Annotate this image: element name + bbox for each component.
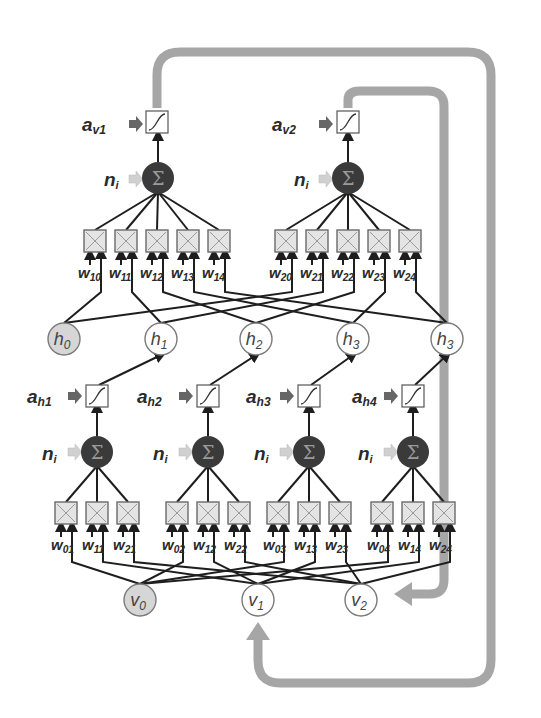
neural-network-diagram: av1 ni Σ av2 ni Σ w10w11w12w13w14w20w21w…	[0, 0, 541, 718]
product-box	[117, 502, 139, 524]
connection-line	[158, 192, 219, 230]
hidden-node-h3: h3	[431, 323, 463, 355]
activation-label-av2: av2	[272, 114, 296, 137]
a-arrow-icon	[179, 388, 193, 404]
connection-line	[413, 466, 444, 502]
input-label-ni: ni	[153, 443, 169, 465]
weight-label: w11	[82, 536, 105, 555]
output-unit-1: av1 ni Σ	[82, 111, 174, 194]
activation-label-h1: ah1	[27, 386, 52, 409]
product-box	[86, 502, 108, 524]
product-box	[371, 502, 393, 524]
weight-label: w04	[367, 536, 390, 555]
sum-icon: Σ	[303, 442, 316, 463]
output-unit-2: av2 ni Σ	[272, 111, 364, 194]
weight-label: w12	[140, 264, 163, 283]
a-arrow-icon	[68, 388, 82, 404]
weight-label: w14	[398, 536, 421, 555]
a-arrow-icon	[280, 388, 294, 404]
connection-line	[317, 192, 348, 230]
activation-label-h3: ah3	[246, 386, 271, 409]
connection-line	[72, 526, 140, 584]
hidden-nodes: h0h1h2h3h3	[48, 323, 463, 355]
sum-icon: Σ	[407, 442, 420, 463]
weight-label: w24	[393, 264, 416, 283]
ni-arrow-icon	[280, 444, 294, 460]
sum-icon: Σ	[202, 442, 215, 463]
connection-line	[210, 355, 256, 385]
hidden-node-h3: h3	[337, 323, 369, 355]
ni-arrow-icon	[68, 444, 82, 460]
connection-line	[95, 192, 158, 230]
product-box	[177, 230, 199, 252]
connection-line	[348, 192, 379, 230]
output-product-boxes: w10w11w12w13w14w20w21w22w23w24	[78, 230, 421, 283]
connection-line	[348, 192, 410, 230]
connection-line	[126, 192, 158, 230]
connection-line	[157, 192, 158, 230]
input-label-ni: ni	[358, 443, 374, 465]
weight-label: w14	[202, 264, 225, 283]
ni-arrow-icon	[319, 171, 333, 187]
a-arrow-icon	[129, 116, 143, 132]
weight-label: w21	[113, 536, 136, 555]
visible-node-v0: v0	[124, 584, 156, 616]
activation-label-h2: ah2	[137, 386, 162, 409]
product-box	[197, 502, 219, 524]
hidden-node-h1: h1	[145, 323, 177, 355]
weight-label: w21	[300, 264, 323, 283]
weight-label: w20	[269, 264, 292, 283]
ni-arrow-icon	[384, 444, 398, 460]
hidden-node-h2: h2	[240, 323, 272, 355]
weight-label: w01	[51, 536, 74, 555]
ni-arrow-icon	[179, 444, 193, 460]
connection-line	[177, 466, 208, 502]
sum-icon: Σ	[342, 168, 355, 189]
weight-label: w10	[78, 264, 101, 283]
connection-line	[208, 466, 239, 502]
connection-line	[158, 192, 188, 230]
a-arrow-icon	[384, 388, 398, 404]
feedback-arrows	[157, 52, 491, 683]
a-arrow-icon	[319, 116, 333, 132]
product-box	[306, 230, 328, 252]
product-box	[208, 230, 230, 252]
product-box	[298, 502, 320, 524]
visible-node-v2: v2	[345, 584, 377, 616]
product-box	[368, 230, 390, 252]
product-box	[337, 230, 359, 252]
weight-label: w11	[109, 264, 132, 283]
connection-line	[286, 192, 348, 230]
connection-line	[97, 466, 128, 502]
activation-label-av1: av1	[82, 114, 106, 137]
product-box	[55, 502, 77, 524]
connection-line	[311, 355, 353, 385]
sum-icon: Σ	[152, 168, 165, 189]
product-box	[84, 230, 106, 252]
hidden-node-h0: h0	[48, 323, 80, 355]
product-box	[402, 502, 424, 524]
activation-label-h4: ah4	[352, 386, 377, 409]
weight-label: w12	[193, 536, 216, 555]
connection-line	[140, 526, 183, 584]
product-box	[267, 502, 289, 524]
product-box	[228, 502, 250, 524]
product-box	[146, 230, 168, 252]
weight-label: w13	[294, 536, 317, 555]
input-label-ni: ni	[254, 443, 270, 465]
connection-line	[346, 526, 361, 584]
product-box	[166, 502, 188, 524]
weight-label: w13	[171, 264, 194, 283]
input-label-ni: ni	[104, 169, 120, 191]
connection-line	[382, 466, 413, 502]
product-box	[275, 230, 297, 252]
weight-label: w22	[224, 536, 247, 555]
connection-line	[66, 466, 97, 502]
input-label-ni: ni	[42, 443, 58, 465]
visible-node-v1: v1	[242, 584, 274, 616]
weight-label: w22	[331, 264, 354, 283]
product-box	[399, 230, 421, 252]
weight-label: w03	[263, 536, 286, 555]
visible-nodes: v0v1v2	[124, 584, 377, 616]
connection-line	[361, 526, 450, 584]
